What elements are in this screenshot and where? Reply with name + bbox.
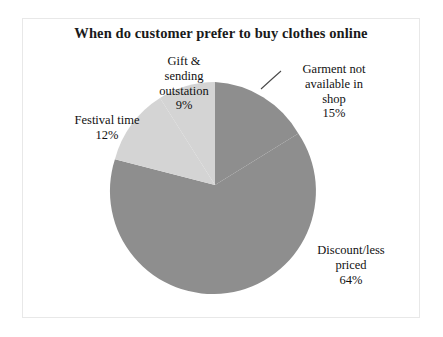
pie-label-garment: Garment not available in shop 15% bbox=[278, 62, 390, 121]
pie-label-festival: Festival time 12% bbox=[52, 113, 162, 143]
pie-label-gift: Gift & sending outstation 9% bbox=[138, 54, 230, 113]
pie-label-discount: Discount/less priced 64% bbox=[292, 243, 410, 287]
